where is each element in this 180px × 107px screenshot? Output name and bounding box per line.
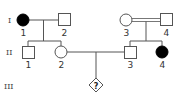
label-II-2: 2 [59,60,65,70]
individual-II-3-male [125,47,137,59]
generation-label-II: II [6,48,12,57]
unknown-question-mark: ? [94,82,99,91]
individual-II-2-female [55,46,67,58]
label-I-3: 3 [124,28,130,38]
label-II-4: 4 [160,60,166,70]
label-II-3: 3 [128,60,134,70]
pedigree-chart: I II III 1 2 3 4 1 2 3 4 ? [0,0,180,107]
label-I-4: 4 [164,28,170,38]
individual-I-3-female [120,14,132,26]
generation-label-III: III [4,82,13,91]
individual-I-2-male [59,14,71,26]
label-I-1: 1 [21,28,27,38]
individual-I-1-affected-female [17,14,29,26]
individual-I-4-male [161,14,173,26]
individual-II-4-affected-female [156,46,168,58]
generation-label-I: I [8,16,11,25]
label-II-1: 1 [26,60,32,70]
individual-II-1-male [23,47,35,59]
label-I-2: 2 [62,28,68,38]
